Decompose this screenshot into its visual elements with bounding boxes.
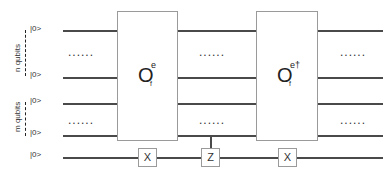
ellipsis-n-1: ...... bbox=[68, 48, 94, 56]
ellipsis-m-2: ...... bbox=[199, 116, 225, 124]
n-qubits-label: n qubits bbox=[13, 44, 22, 72]
x-gate-2: X bbox=[278, 148, 297, 167]
wire-m-bottom bbox=[63, 135, 383, 137]
ellipsis-n-3: ...... bbox=[340, 48, 366, 56]
ellipsis-m-3: ...... bbox=[340, 116, 366, 124]
ellipsis-n-2: ...... bbox=[199, 48, 225, 56]
wire-n-bottom bbox=[63, 77, 383, 79]
m-register-arrow bbox=[25, 102, 26, 136]
n-register-arrow bbox=[25, 30, 26, 76]
ket-m-top: |0> bbox=[30, 96, 41, 105]
oracle-label: Oef bbox=[138, 64, 154, 87]
wire-n-top bbox=[63, 30, 383, 32]
oracle-dagger-box: Oe†f bbox=[256, 11, 318, 141]
ket-ancilla: |0> bbox=[30, 150, 41, 159]
control-line bbox=[210, 135, 212, 149]
oracle-dagger-label: Oe†f bbox=[277, 64, 293, 87]
m-qubits-label: m qubits bbox=[13, 102, 22, 132]
x-gate-1: X bbox=[138, 148, 157, 167]
oracle-box: Oef bbox=[117, 11, 178, 141]
ellipsis-m-1: ...... bbox=[68, 116, 94, 124]
ket-n-bottom: |0> bbox=[30, 70, 41, 79]
wire-m-top bbox=[63, 103, 383, 105]
ket-n-top: |0> bbox=[30, 24, 41, 33]
z-gate: Z bbox=[201, 148, 220, 167]
wire-ancilla bbox=[63, 157, 383, 159]
ket-m-bottom: |0> bbox=[30, 128, 41, 137]
